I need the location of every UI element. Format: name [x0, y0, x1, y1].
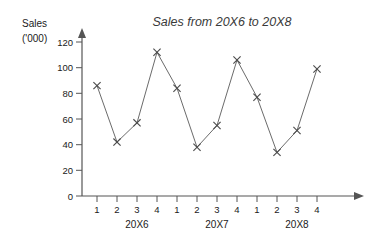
data-point-marker — [153, 49, 160, 56]
x-group-label-20X8: 20X8 — [285, 219, 309, 230]
data-point-marker — [133, 119, 140, 126]
data-point-marker — [113, 139, 120, 146]
y-axis-title-group: Sales ('000) — [22, 18, 47, 44]
x-tick-label-2: 3 — [134, 204, 139, 215]
x-axis: 1 2 3 4 1 2 3 4 1 2 3 4 20X6 20X7 20X8 — [82, 192, 364, 230]
x-tick-label-9: 2 — [274, 204, 279, 215]
y-tick-label-0: 0 — [68, 191, 73, 202]
data-point-marker — [253, 94, 260, 101]
sales-series-line — [97, 52, 317, 152]
data-point-marker — [233, 56, 240, 63]
chart-title-group: Sales from 20X6 to 20X8 — [153, 15, 292, 29]
x-tick-label-4: 1 — [174, 204, 179, 215]
y-tick-label-40: 40 — [62, 139, 73, 150]
chart-canvas: Sales from 20X6 to 20X8 Sales ('000) 0 2… — [0, 0, 380, 244]
x-tick-label-5: 2 — [194, 204, 199, 215]
data-point-marker — [313, 65, 320, 72]
y-tick-label-20: 20 — [62, 165, 73, 176]
x-tick-label-8: 1 — [254, 204, 259, 215]
x-tick-label-7: 4 — [234, 204, 239, 215]
x-axis-arrow-icon — [354, 192, 364, 200]
x-tick-label-10: 3 — [294, 204, 299, 215]
x-group-label-20X6: 20X6 — [125, 219, 149, 230]
x-tick-label-0: 1 — [94, 204, 99, 215]
x-tick-label-3: 4 — [154, 204, 159, 215]
data-point-marker — [273, 149, 280, 156]
data-point-marker — [193, 144, 200, 151]
x-tick-label-11: 4 — [314, 204, 319, 215]
sales-line-chart: Sales from 20X6 to 20X8 Sales ('000) 0 2… — [0, 0, 380, 244]
y-axis: 0 20 40 60 80 100 120 — [57, 28, 86, 202]
y-axis-title-line1: Sales — [22, 18, 47, 29]
y-tick-label-100: 100 — [57, 62, 73, 73]
data-point-marker — [93, 82, 100, 89]
y-tick-label-80: 80 — [62, 88, 73, 99]
data-point-marker — [213, 122, 220, 129]
sales-series — [93, 49, 320, 156]
data-point-marker — [293, 127, 300, 134]
y-tick-label-120: 120 — [57, 37, 73, 48]
sales-series-markers — [93, 49, 320, 156]
chart-title: Sales from 20X6 to 20X8 — [153, 15, 292, 29]
y-axis-title-line2: ('000) — [22, 33, 47, 44]
x-tick-label-1: 2 — [114, 204, 119, 215]
y-axis-arrow-icon — [78, 28, 86, 38]
data-point-marker — [173, 85, 180, 92]
y-tick-label-60: 60 — [62, 114, 73, 125]
x-group-label-20X7: 20X7 — [205, 219, 229, 230]
x-tick-label-6: 3 — [214, 204, 219, 215]
